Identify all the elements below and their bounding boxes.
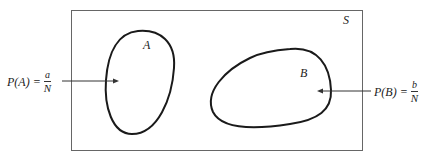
event-a-region — [106, 31, 174, 134]
probability-a-numerator: a — [44, 70, 51, 82]
probability-a-fraction: a N — [44, 70, 51, 94]
venn-diagram — [0, 0, 430, 160]
arrow-a-head — [113, 79, 119, 84]
sample-space-label: S — [343, 13, 349, 28]
probability-a-denominator: N — [44, 82, 51, 94]
probability-b-formula: P(B) = b N — [374, 80, 418, 104]
probability-b-lhs: P(B) = — [374, 85, 408, 100]
event-b-label: B — [300, 66, 307, 81]
probability-b-denominator: N — [411, 92, 418, 104]
probability-a-lhs: P(A) = — [7, 75, 41, 90]
event-a-label: A — [143, 38, 150, 53]
arrow-b-head — [317, 89, 323, 94]
probability-a-formula: P(A) = a N — [7, 70, 51, 94]
probability-b-fraction: b N — [411, 80, 418, 104]
probability-b-numerator: b — [411, 80, 418, 92]
event-b-region — [211, 49, 331, 127]
